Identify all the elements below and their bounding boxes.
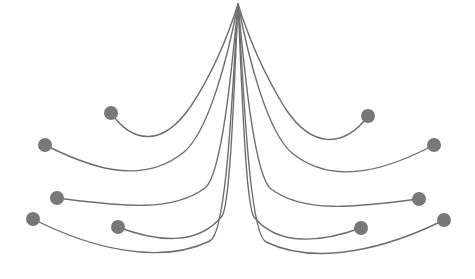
leaf-node-l1[interactable] xyxy=(104,106,118,120)
node-layer xyxy=(26,106,451,235)
leaf-node-l3[interactable] xyxy=(50,191,64,205)
leaf-node-r1[interactable] xyxy=(361,109,375,123)
leaf-node-r5[interactable] xyxy=(354,221,368,235)
bundle-edge-l3-r3[interactable] xyxy=(57,4,419,206)
leaf-node-l4[interactable] xyxy=(26,212,40,226)
edge-layer xyxy=(33,4,444,253)
leaf-node-r2[interactable] xyxy=(427,138,441,152)
edge-bundling-svg xyxy=(0,0,475,279)
leaf-node-l2[interactable] xyxy=(38,138,52,152)
leaf-node-l5[interactable] xyxy=(111,220,125,234)
leaf-node-r4[interactable] xyxy=(437,213,451,227)
diagram-canvas xyxy=(0,0,475,279)
leaf-node-r3[interactable] xyxy=(412,192,426,206)
bundle-edge-l4-r4[interactable] xyxy=(33,4,444,253)
bundle-edge-l5-r5[interactable] xyxy=(118,4,361,239)
